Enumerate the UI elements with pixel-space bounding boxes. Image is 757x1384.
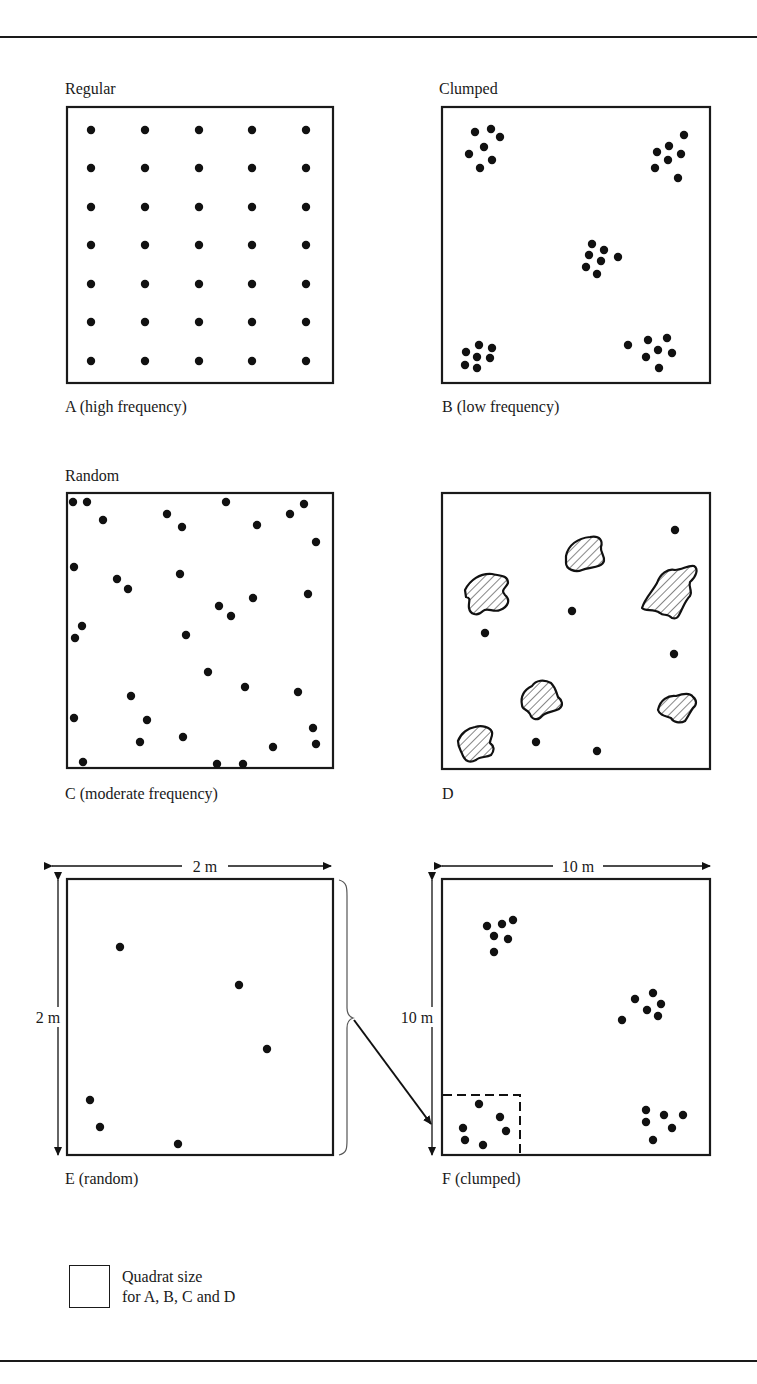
panel-e-height-label: 2 m [36,1009,61,1026]
individual-dot [674,174,682,182]
individual-dot [309,724,317,732]
individual-dot [614,253,622,261]
individual-dot [302,241,310,249]
individual-dot [248,241,256,249]
individual-dot [141,241,149,249]
individual-dot [624,341,632,349]
individual-dot [253,521,261,529]
individual-dot [239,760,247,768]
individual-dot [663,334,671,342]
individual-dot [653,148,661,156]
panel-f-frame [442,879,710,1155]
individual-dot [70,714,78,722]
legend-quadrat-size-swatch [69,1265,110,1308]
individual-dot [302,164,310,172]
individual-dot [680,131,688,139]
individual-dot [642,1106,650,1114]
individual-dot [235,981,243,989]
panel-d-caption: D [442,785,454,802]
individual-dot [195,357,203,365]
individual-dot [643,1006,651,1014]
individual-dot [71,634,79,642]
hatched-patch [465,574,508,614]
individual-dot [302,357,310,365]
individual-dot [461,1136,469,1144]
panel-c-frame [67,493,333,768]
individual-dot [141,318,149,326]
individual-dot [654,1012,662,1020]
panel-c-heading: Random [65,467,120,484]
panel-f-clumped: 10 m 10 m F (clumped) [394,856,710,1188]
individual-dot [141,164,149,172]
individual-dot [87,357,95,365]
panel-e-width-label: 2 m [193,858,218,875]
individual-dot [248,280,256,288]
individual-dot [269,743,277,751]
panel-e-caption: E (random) [65,1170,138,1188]
individual-dot [127,692,135,700]
panel-b-caption: B (low frequency) [442,398,559,416]
individual-dot [79,758,87,766]
panel-c-dots [69,498,320,768]
individual-dot [195,164,203,172]
individual-dot [664,156,672,164]
individual-dot [195,203,203,211]
individual-dot [263,1045,271,1053]
individual-dot [179,733,187,741]
individual-dot [312,740,320,748]
individual-dot [488,344,496,352]
individual-dot [141,203,149,211]
panel-e-brace [339,880,353,1155]
individual-dot [660,1111,668,1119]
individual-dot [312,538,320,546]
legend-text: Quadrat size for A, B, C and D [122,1267,235,1307]
individual-dot [195,126,203,134]
panel-a-dots [87,126,310,365]
individual-dot [631,995,639,1003]
individual-dot [509,916,517,924]
individual-dot [87,280,95,288]
individual-dot [588,240,596,248]
individual-dot [496,1113,504,1121]
individual-dot [300,500,308,508]
individual-dot [473,364,481,372]
individual-dot [174,1140,182,1148]
individual-dot [213,760,221,768]
individual-dot [182,631,190,639]
individual-dot [116,943,124,951]
individual-dot [195,241,203,249]
panel-b-dots [461,125,688,372]
individual-dot [99,516,107,524]
individual-dot [96,1123,104,1131]
individual-dot [302,280,310,288]
individual-dot [568,607,576,615]
individual-dot [222,498,230,506]
individual-dot [671,526,679,534]
individual-dot [176,570,184,578]
individual-dot [600,246,608,254]
individual-dot [593,747,601,755]
individual-dot [302,203,310,211]
panel-b-clumped: Clumped B (low frequency) [439,80,710,416]
individual-dot [215,602,223,610]
individual-dot [141,357,149,365]
panel-f-caption: F (clumped) [442,1170,521,1188]
panel-a-regular: Regular A (high frequency) [65,80,333,416]
individual-dot [248,164,256,172]
panel-e-random: 2 m 2 m E (random) [30,856,353,1188]
legend-line-1: Quadrat size [122,1267,235,1287]
individual-dot [459,1124,467,1132]
hatched-patch [458,726,494,761]
individual-dot [248,318,256,326]
individual-dot [302,126,310,134]
individual-dot [461,361,469,369]
individual-dot [504,935,512,943]
panel-c-caption: C (moderate frequency) [65,785,218,803]
individual-dot [302,318,310,326]
individual-dot [649,989,657,997]
individual-dot [481,629,489,637]
individual-dot [597,257,605,265]
individual-dot [487,125,495,133]
individual-dot [651,164,659,172]
panel-e-frame [67,879,333,1155]
